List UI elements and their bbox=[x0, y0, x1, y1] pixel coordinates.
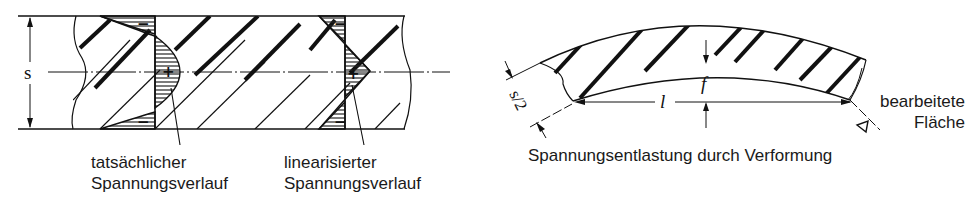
triangle-surface-icon bbox=[857, 121, 868, 132]
label-linearized-line2: Spannungsverlauf bbox=[284, 173, 421, 194]
deformed-bar: l f s/2 bbox=[505, 13, 880, 138]
label-machined-surface: bearbeitete Fläche bbox=[870, 91, 965, 133]
label-actual-line2: Spannungsverlauf bbox=[91, 173, 228, 194]
arrow-up-f-icon bbox=[703, 102, 709, 111]
label-surface-line1: bearbeitete bbox=[870, 91, 965, 112]
inner-arc bbox=[573, 78, 850, 101]
dimension-f: f bbox=[701, 40, 709, 128]
label-actual-stress: tatsächlicher Spannungsverlauf bbox=[91, 152, 228, 194]
outer-arc bbox=[540, 26, 866, 63]
label-actual-line1: tatsächlicher bbox=[91, 152, 228, 173]
actual-stress-distribution: − + − bbox=[100, 15, 180, 131]
dimension-f-label: f bbox=[701, 73, 709, 94]
arrow-down-f-icon bbox=[703, 55, 709, 64]
dimension-l: l bbox=[574, 91, 852, 112]
leader-actual bbox=[171, 88, 180, 145]
label-linearized-stress: linearisierter Spannungsverlauf bbox=[284, 152, 421, 194]
caption-stress-relief: Spannungsentlastung durch Verformung bbox=[528, 145, 832, 166]
label-surface-line2: Fläche bbox=[870, 112, 965, 133]
plate-cross-section: − + − − + − s bbox=[18, 15, 450, 145]
dimension-s-half: s/2 bbox=[505, 61, 572, 138]
minus-sign-bottom-lin: − bbox=[334, 113, 347, 131]
plus-sign-lin: + bbox=[347, 65, 360, 83]
dimension-s-half-label: s/2 bbox=[505, 87, 531, 113]
dimension-s: s bbox=[24, 17, 33, 128]
machined-edge bbox=[848, 68, 862, 100]
leader-linearized bbox=[352, 85, 364, 145]
minus-sign-top: − bbox=[137, 15, 150, 33]
dimension-l-label: l bbox=[660, 91, 665, 112]
label-linearized-line1: linearisierter bbox=[284, 152, 421, 173]
arrow-down-icon bbox=[27, 118, 33, 128]
dimension-s-label: s bbox=[24, 62, 31, 83]
minus-sign-bottom: − bbox=[137, 113, 150, 131]
minus-sign-top-lin: − bbox=[334, 15, 347, 33]
arrow-up-icon bbox=[27, 17, 33, 27]
